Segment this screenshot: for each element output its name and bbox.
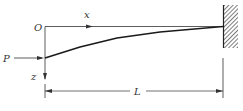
fixed-wall-support [224,5,239,48]
z-axis [43,27,47,81]
dim-arrow-right-icon [216,89,223,93]
origin-label: O [34,22,42,33]
deflected-beam [45,27,223,59]
cantilever-diagram: x O z P L [0,0,243,111]
x-axis-label: x [84,9,90,20]
load-label: P [2,53,10,64]
z-axis-label: z [30,71,37,82]
x-axis-arrow-icon [86,25,93,29]
z-axis-arrow-icon [43,73,47,80]
load-arrow [14,56,44,60]
x-axis [45,25,223,29]
length-label: L [133,86,141,97]
load-arrow-head-icon [37,56,44,60]
dim-arrow-left-icon [45,89,52,93]
